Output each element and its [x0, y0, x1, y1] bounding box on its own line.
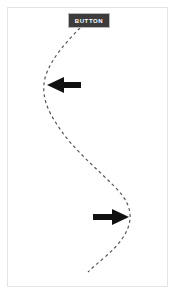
- dashed-swoosh-path: [0, 0, 176, 295]
- dashed-curve: [44, 28, 130, 272]
- screenshot-canvas: BUTTON: [0, 0, 176, 295]
- button-control[interactable]: BUTTON: [68, 13, 110, 28]
- button-label: BUTTON: [75, 18, 104, 24]
